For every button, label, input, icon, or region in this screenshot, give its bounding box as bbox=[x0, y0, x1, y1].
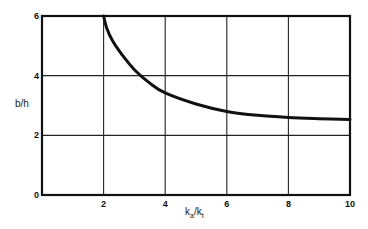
x-axis-label: ka/kt bbox=[185, 206, 204, 219]
x-tick-label: 10 bbox=[345, 199, 355, 209]
y-tick-label: 6 bbox=[34, 11, 39, 21]
y-tick-label: 2 bbox=[34, 130, 39, 140]
x-tick-label: 4 bbox=[163, 199, 168, 209]
chart: 0246 246810 b/h ka/kt bbox=[0, 0, 368, 229]
y-axis-ticks: 0246 bbox=[34, 11, 39, 200]
x-axis-ticks: 246810 bbox=[101, 199, 355, 209]
y-tick-label: 0 bbox=[34, 190, 39, 200]
x-tick-label: 8 bbox=[286, 199, 291, 209]
x-tick-label: 2 bbox=[101, 199, 106, 209]
y-axis-label: b/h bbox=[15, 98, 29, 109]
x-tick-label: 6 bbox=[224, 199, 229, 209]
y-tick-label: 4 bbox=[34, 71, 39, 81]
